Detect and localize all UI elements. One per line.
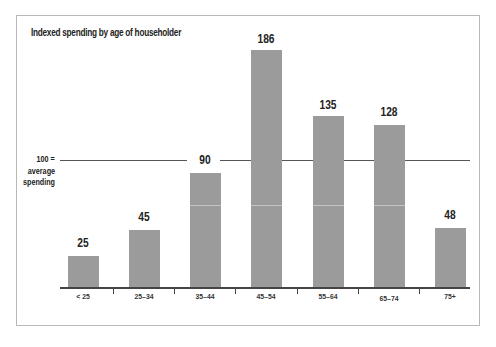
reference-label-average: average [28,166,55,176]
value-label-65-74: 128 [372,105,406,119]
x-axis-tick [174,289,175,294]
category-label-35-44: 35–44 [184,292,227,301]
x-axis-tick [113,289,114,294]
category-label-65-74: 65–74 [368,294,411,303]
bar-35-44 [190,173,221,287]
value-label-75-plus: 48 [433,208,467,222]
category-label-45-54: 45–54 [245,292,288,301]
value-label-45-54: 186 [249,32,283,46]
x-axis-tick [235,289,236,294]
bar-75-plus [435,228,466,287]
x-axis-tick [297,289,298,294]
bar-under-25 [68,256,99,287]
value-label-25-34: 45 [127,210,161,224]
reference-label-value: 100 = [37,154,55,164]
chart-title: Indexed spending by age of householder [31,27,181,38]
category-label-55-64: 55–64 [307,292,350,301]
reference-line-left [60,160,187,161]
x-axis-tick [358,289,359,294]
category-label-75-plus: 75+ [429,292,472,301]
category-label-25-34: 25–34 [123,292,166,301]
category-label-under-25: < 25 [62,292,105,301]
bar-65-74 [374,125,405,287]
value-label-under-25: 25 [66,236,100,250]
reference-label-spending: spending [23,177,55,187]
bar-55-64 [313,116,344,287]
x-axis [60,287,470,289]
x-axis-tick [419,289,420,294]
value-label-35-44: 90 [188,153,222,167]
bar-45-54 [251,50,282,287]
bar-25-34 [129,230,160,287]
value-label-55-64: 135 [311,98,345,112]
